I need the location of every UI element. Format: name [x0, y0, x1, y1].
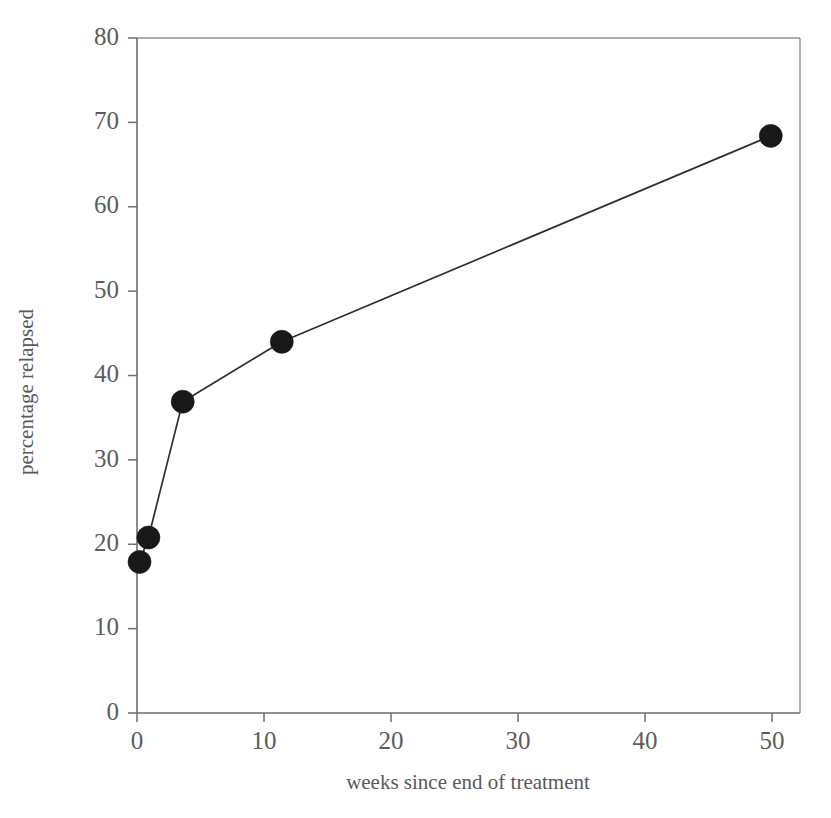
- x-tick-label: 20: [379, 727, 404, 754]
- x-tick-label: 50: [760, 727, 785, 754]
- axis-frame: [137, 38, 800, 713]
- y-axis-ticks: 01020304050607080: [94, 23, 137, 725]
- data-line-series-0: [140, 136, 771, 562]
- chart-figure: 01020304050607080 01020304050 weeks sinc…: [0, 0, 831, 818]
- chart-canvas: 01020304050607080 01020304050 weeks sinc…: [0, 0, 831, 818]
- x-tick-label: 0: [131, 727, 144, 754]
- data-point-marker: [137, 526, 160, 549]
- y-tick-label: 10: [94, 613, 119, 640]
- x-tick-label: 40: [633, 727, 658, 754]
- y-tick-label: 70: [94, 107, 119, 134]
- x-axis-ticks: 01020304050: [131, 713, 785, 754]
- y-tick-label: 0: [107, 698, 120, 725]
- data-point-marker: [759, 124, 782, 147]
- y-axis-label: percentage relapsed: [14, 308, 38, 475]
- data-point-marker: [128, 550, 151, 573]
- data-point-marker: [270, 330, 293, 353]
- x-tick-label: 30: [506, 727, 531, 754]
- y-tick-label: 50: [94, 276, 119, 303]
- x-axis-label: weeks since end of treatment: [346, 770, 590, 794]
- data-point-marker: [171, 390, 194, 413]
- y-tick-label: 30: [94, 445, 119, 472]
- y-tick-label: 20: [94, 529, 119, 556]
- y-tick-label: 40: [94, 360, 119, 387]
- y-tick-label: 60: [94, 191, 119, 218]
- x-tick-label: 10: [252, 727, 277, 754]
- y-tick-label: 80: [94, 23, 119, 50]
- data-markers-series-0: [128, 124, 782, 573]
